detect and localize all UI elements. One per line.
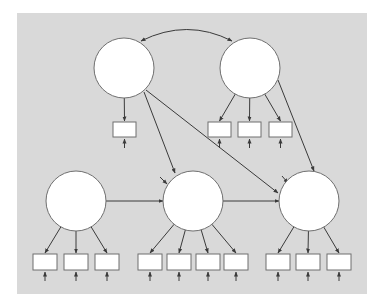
indicator-box-x3 bbox=[238, 122, 261, 137]
indicator-box-y6 bbox=[196, 254, 220, 270]
indicator-box-y1 bbox=[33, 254, 57, 270]
indicator-box-x1 bbox=[113, 122, 136, 137]
indicator-box-y2 bbox=[64, 254, 88, 270]
indicator-box-y5 bbox=[167, 254, 191, 270]
indicator-box-y7 bbox=[224, 254, 248, 270]
latent-node-L1 bbox=[94, 38, 154, 98]
indicator-box-y3 bbox=[95, 254, 119, 270]
indicator-box-x4 bbox=[269, 122, 292, 137]
latent-node-L5 bbox=[279, 171, 339, 231]
indicator-box-x2 bbox=[208, 122, 231, 137]
latent-node-L4 bbox=[163, 171, 223, 231]
indicator-box-y8 bbox=[266, 254, 290, 270]
indicator-box-y10 bbox=[327, 254, 351, 270]
latent-node-L2 bbox=[220, 38, 280, 98]
indicator-box-y9 bbox=[296, 254, 320, 270]
latent-node-L3 bbox=[46, 171, 106, 231]
sem-path-diagram bbox=[0, 0, 384, 306]
diagram-panel bbox=[17, 13, 367, 294]
indicator-box-y4 bbox=[138, 254, 162, 270]
